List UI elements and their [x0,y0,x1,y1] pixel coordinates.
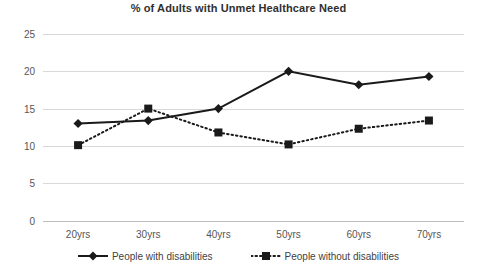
series-markers-group [73,67,433,149]
data-point-marker [424,72,433,81]
y-axis-tick-label: 20 [24,66,36,77]
x-axis-tick-label: 60yrs [347,229,371,240]
data-point-marker [214,128,222,136]
x-axis-tick-label: 70yrs [417,229,441,240]
legend-label-people-without-disabilities: People without disabilities [285,251,400,262]
legend-label-people-with-disabilities: People with disabilities [112,251,213,262]
legend-swatch-solid-diamond [78,250,108,262]
x-axis-tick-labels: 20yrs30yrs40yrs50yrs60yrs70yrs [66,229,441,240]
y-axis-tick-label: 0 [29,216,35,227]
data-point-marker [285,140,293,148]
x-axis-tick-label: 20yrs [66,229,90,240]
legend-item-people-with-disabilities[interactable]: People with disabilities [78,250,213,262]
x-axis-tick-label: 50yrs [276,229,300,240]
data-point-marker [284,67,293,76]
data-point-marker [74,141,82,149]
chart-plot-area: 0510152025 20yrs30yrs40yrs50yrs60yrs70yr… [0,0,477,248]
data-point-marker [144,105,152,113]
series-line-0 [78,71,429,123]
gridlines-group [43,35,464,222]
chart-container: % of Adults with Unmet Healthcare Need 0… [0,0,477,272]
data-point-marker [355,125,363,133]
y-axis-tick-label: 25 [24,29,36,40]
y-axis-tick-label: 5 [29,178,35,189]
series-line-1 [78,109,429,146]
y-axis-tick-label: 15 [24,104,36,115]
data-point-marker [73,119,82,128]
data-point-marker [354,80,363,89]
series-lines-group [78,71,429,145]
data-point-marker [144,116,153,125]
chart-legend: People with disabilities People without … [0,250,477,262]
data-point-marker [214,104,223,113]
legend-item-people-without-disabilities[interactable]: People without disabilities [251,250,400,262]
legend-swatch-dotted-square [251,250,281,262]
x-axis-tick-label: 30yrs [136,229,160,240]
x-axis-tick-label: 40yrs [206,229,230,240]
data-point-marker [425,117,433,125]
y-axis-tick-labels: 0510152025 [24,29,36,227]
y-axis-tick-label: 10 [24,141,36,152]
